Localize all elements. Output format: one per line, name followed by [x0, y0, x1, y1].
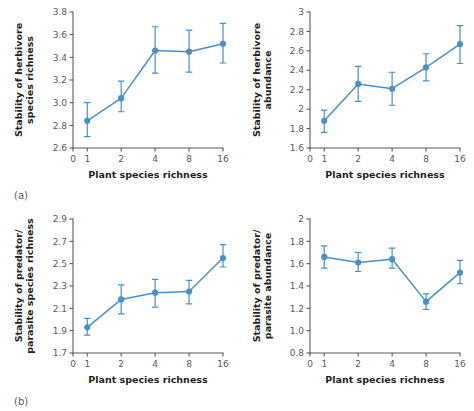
y-tick-label: 2.6 — [53, 143, 68, 153]
x-axis-title: Plant species richness — [325, 169, 445, 180]
y-tick-label: 2.5 — [53, 259, 67, 269]
data-point-marker — [321, 254, 327, 260]
y-tick-label: 2.8 — [290, 27, 305, 37]
y-tick-label: 2.1 — [53, 304, 67, 314]
x-tick-label: 4 — [152, 154, 158, 164]
y-tick-label: 1.7 — [53, 348, 67, 358]
y-tick-label: 1.4 — [290, 281, 305, 291]
y-tick-label: 1.2 — [290, 304, 304, 314]
data-point-marker — [84, 118, 90, 124]
data-point-marker — [355, 81, 361, 87]
x-tick-label: 1 — [84, 154, 90, 164]
data-point-marker — [457, 41, 463, 47]
data-series — [321, 26, 463, 133]
chart-panel-herbivore-abundance: 1.61.822.22.42.62.830124816Plant species… — [237, 0, 474, 205]
y-tick-label: 2.4 — [290, 65, 305, 75]
y-tick-label: 2.6 — [290, 46, 305, 56]
x-axis-title: Plant species richness — [88, 169, 208, 180]
axes-group: 1.61.822.22.42.62.830124816 — [290, 7, 466, 163]
y-tick-label: 3.2 — [53, 75, 67, 85]
y-tick-label: 1.6 — [290, 259, 305, 269]
axes-group: 2.62.83.03.23.43.63.80124816 — [53, 7, 229, 163]
axes-group: 0.81.01.21.41.61.820124816 — [290, 214, 466, 368]
y-axis-title-line: Stability of predator/ — [251, 229, 262, 342]
data-point-marker — [186, 288, 192, 294]
data-point-marker — [186, 49, 192, 55]
y-tick-label: 1.8 — [290, 237, 305, 247]
data-point-marker — [118, 296, 124, 302]
y-tick-label: 1.6 — [290, 143, 305, 153]
x-tick-label: 4 — [389, 154, 395, 164]
chart-panel-predator-parasite-abundance: 0.81.01.21.41.61.820124816Plant species … — [237, 205, 474, 411]
y-tick-label: 2.9 — [53, 214, 68, 224]
y-tick-label: 1.9 — [53, 326, 68, 336]
panel-label: (b) — [14, 396, 28, 407]
x-tick-label: 2 — [118, 359, 124, 369]
chart-panel-herbivore-species-richness: 2.62.83.03.23.43.63.80124816Plant specie… — [0, 0, 237, 205]
x-tick-label: 8 — [186, 154, 192, 164]
data-series — [84, 245, 226, 335]
y-tick-label: 2.2 — [290, 85, 304, 95]
panel-label: (a) — [14, 190, 28, 201]
y-axis-title-line: abundance — [262, 51, 273, 110]
y-axis-title-line: Stability of herbivore — [13, 23, 24, 137]
y-tick-label: 3 — [298, 7, 304, 17]
x-tick-label: 8 — [186, 359, 192, 369]
x-tick-label: 4 — [152, 359, 158, 369]
y-tick-label: 2.3 — [53, 281, 67, 291]
data-point-marker — [423, 64, 429, 70]
x-tick-label: 0 — [70, 359, 76, 369]
y-axis-title-line: parasite species richness — [24, 218, 35, 354]
x-axis-title: Plant species richness — [88, 374, 208, 385]
x-tick-label: 16 — [454, 154, 466, 164]
y-tick-label: 1.8 — [290, 124, 305, 134]
x-tick-label: 1 — [321, 154, 327, 164]
x-tick-label: 0 — [307, 359, 313, 369]
figure-root: 2.62.83.03.23.43.63.80124816Plant specie… — [0, 0, 474, 411]
data-point-marker — [355, 259, 361, 265]
x-tick-label: 1 — [321, 359, 327, 369]
data-point-marker — [389, 86, 395, 92]
data-series — [84, 23, 226, 136]
x-tick-label: 2 — [355, 359, 361, 369]
x-tick-label: 4 — [389, 359, 395, 369]
y-tick-label: 0.8 — [290, 348, 305, 358]
x-tick-label: 8 — [423, 359, 429, 369]
data-point-marker — [84, 324, 90, 330]
y-tick-label: 2.7 — [53, 237, 67, 247]
data-point-marker — [220, 41, 226, 47]
chart-panel-predator-parasite-species-richness: 1.71.92.12.32.52.72.90124816Plant specie… — [0, 205, 237, 411]
y-tick-label: 2 — [298, 104, 304, 114]
y-axis-title-line: Stability of predator/ — [13, 229, 24, 342]
y-axis-title-line: species richness — [24, 36, 35, 124]
x-tick-label: 16 — [217, 154, 229, 164]
chart-svg-herbivore-abundance: 1.61.822.22.42.62.830124816Plant species… — [237, 0, 474, 205]
y-tick-label: 2.8 — [53, 121, 68, 131]
data-point-marker — [423, 299, 429, 305]
x-tick-label: 1 — [84, 359, 90, 369]
data-point-marker — [389, 256, 395, 262]
x-tick-label: 2 — [355, 154, 361, 164]
data-point-marker — [321, 118, 327, 124]
y-tick-label: 1.0 — [290, 326, 305, 336]
data-point-marker — [220, 255, 226, 261]
y-tick-label: 3.4 — [53, 53, 68, 63]
data-series — [321, 246, 463, 310]
data-point-marker — [118, 95, 124, 101]
x-tick-label: 16 — [217, 359, 229, 369]
y-tick-label: 3.8 — [53, 7, 68, 17]
data-point-marker — [152, 290, 158, 296]
x-tick-label: 2 — [118, 154, 124, 164]
chart-svg-predator-parasite-abundance: 0.81.01.21.41.61.820124816Plant species … — [237, 205, 474, 411]
chart-svg-herbivore-species-richness: 2.62.83.03.23.43.63.80124816Plant specie… — [0, 0, 237, 205]
y-axis-title-line: Stability of herbivore — [251, 23, 262, 137]
x-axis-title: Plant species richness — [325, 374, 445, 385]
data-point-marker — [457, 270, 463, 276]
y-axis-title-line: parasite abundance — [262, 233, 273, 339]
y-tick-label: 2 — [298, 214, 304, 224]
y-tick-label: 3.6 — [53, 30, 68, 40]
x-tick-label: 8 — [423, 154, 429, 164]
chart-svg-predator-parasite-species-richness: 1.71.92.12.32.52.72.90124816Plant specie… — [0, 205, 237, 411]
x-tick-label: 16 — [454, 359, 466, 369]
axes-group: 1.71.92.12.32.52.72.90124816 — [53, 214, 229, 368]
